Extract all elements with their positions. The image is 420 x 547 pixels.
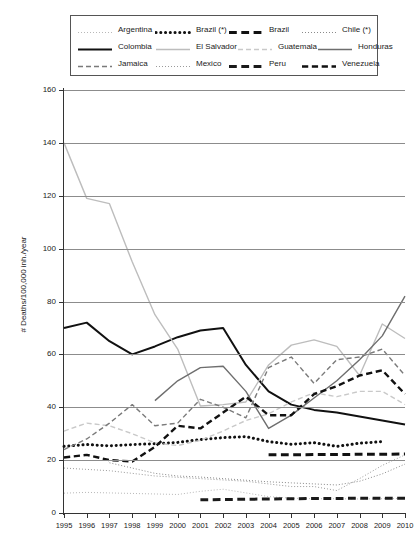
x-tick-label: 1995 xyxy=(56,522,73,530)
x-tick-label: 2005 xyxy=(283,522,300,530)
gridline xyxy=(64,460,405,461)
y-tick-label: 140 xyxy=(43,139,56,147)
x-tick-label: 1997 xyxy=(101,522,118,530)
legend-item-colombia[interactable]: Colombia xyxy=(77,38,155,55)
y-tick xyxy=(59,90,64,91)
series-line-chile xyxy=(109,463,405,485)
legend-swatch-icon xyxy=(228,58,264,69)
x-tick-label: 2006 xyxy=(306,522,323,530)
legend-swatch-icon xyxy=(301,58,337,69)
legend-label: El Salvador xyxy=(191,42,237,52)
x-tick-label: 2010 xyxy=(397,522,414,530)
y-tick xyxy=(59,460,64,461)
legend-swatch-icon xyxy=(301,24,337,35)
y-tick xyxy=(59,143,64,144)
gridline xyxy=(64,249,405,250)
y-tick xyxy=(59,407,64,408)
x-tick xyxy=(246,513,247,518)
x-tick xyxy=(87,513,88,518)
legend-swatch-icon xyxy=(77,58,113,69)
gridline xyxy=(64,196,405,197)
x-tick-label: 2009 xyxy=(374,522,391,530)
y-tick-label: 0 xyxy=(52,509,56,517)
x-tick xyxy=(155,513,156,518)
legend-swatch-icon xyxy=(155,24,191,35)
y-tick-label: 160 xyxy=(43,86,56,94)
series-line-brazil xyxy=(269,454,405,455)
legend-item-mexico[interactable]: Mexico xyxy=(155,55,228,72)
legend-label: Venezuela xyxy=(337,59,379,69)
legend-swatch-icon xyxy=(77,41,113,52)
legend-label: Colombia xyxy=(113,42,152,52)
x-tick-label: 2003 xyxy=(238,522,255,530)
legend-item-guatemala[interactable]: Guatemala xyxy=(237,38,317,55)
gridline xyxy=(64,302,405,303)
series-line-colombia xyxy=(64,323,405,425)
chart-legend: ArgentinaBrazil (*)BrazilChile (*) Colom… xyxy=(70,15,378,76)
y-tick-label: 120 xyxy=(43,192,56,200)
y-tick xyxy=(59,196,64,197)
y-tick-label: 80 xyxy=(47,298,56,306)
x-tick-label: 2007 xyxy=(328,522,345,530)
legend-item-jamaica[interactable]: Jamaica xyxy=(77,55,155,72)
legend-swatch-icon xyxy=(77,24,113,35)
legend-label: Chile (*) xyxy=(337,25,371,35)
legend-item-peru[interactable]: Peru xyxy=(228,55,301,72)
legend-label: Guatemala xyxy=(273,42,317,52)
legend-item-el-salvador[interactable]: El Salvador xyxy=(155,38,237,55)
x-tick-label: 2002 xyxy=(215,522,232,530)
legend-label: Brazil xyxy=(264,25,289,35)
series-line-brazil xyxy=(64,437,382,447)
x-tick-label: 1999 xyxy=(147,522,164,530)
legend-row-2: ColombiaEl SalvadorGuatemalaHonduras xyxy=(77,38,371,55)
legend-label: Brazil (*) xyxy=(191,25,227,35)
legend-item-argentina[interactable]: Argentina xyxy=(77,21,155,38)
x-tick xyxy=(360,513,361,518)
legend-label: Jamaica xyxy=(113,59,148,69)
legend-row-1: ArgentinaBrazil (*)BrazilChile (*) xyxy=(77,21,371,38)
x-tick xyxy=(223,513,224,518)
x-tick xyxy=(178,513,179,518)
series-line-el-salvador xyxy=(64,143,405,406)
y-tick-label: 40 xyxy=(47,403,56,411)
legend-row-3: JamaicaMexicoPeruVenezuela xyxy=(77,55,371,72)
legend-swatch-icon xyxy=(155,58,191,69)
x-tick xyxy=(405,513,406,518)
legend-item-honduras[interactable]: Honduras xyxy=(317,38,395,55)
x-tick xyxy=(337,513,338,518)
x-tick-label: 2000 xyxy=(169,522,186,530)
legend-swatch-icon xyxy=(317,41,353,52)
x-tick-label: 1996 xyxy=(78,522,95,530)
legend-label: Peru xyxy=(264,59,286,69)
gridline xyxy=(64,143,405,144)
legend-item-brazil[interactable]: Brazil (*) xyxy=(155,21,228,38)
x-tick xyxy=(132,513,133,518)
legend-item-chile[interactable]: Chile (*) xyxy=(301,21,379,38)
gridline xyxy=(64,354,405,355)
legend-item-venezuela[interactable]: Venezuela xyxy=(301,55,379,72)
y-tick-label: 20 xyxy=(47,456,56,464)
gridline xyxy=(64,407,405,408)
legend-swatch-icon xyxy=(228,24,264,35)
x-axis: 1995199619971998199920002001200220032004… xyxy=(64,513,406,543)
x-tick xyxy=(291,513,292,518)
legend-swatch-icon xyxy=(237,41,273,52)
y-tick-label: 100 xyxy=(43,245,56,253)
y-tick xyxy=(59,354,64,355)
x-tick-label: 2004 xyxy=(260,522,277,530)
x-tick xyxy=(269,513,270,518)
x-tick xyxy=(109,513,110,518)
y-tick xyxy=(59,302,64,303)
y-tick-label: 60 xyxy=(47,350,56,358)
x-tick xyxy=(382,513,383,518)
x-tick xyxy=(314,513,315,518)
legend-label: Honduras xyxy=(353,42,393,52)
x-tick-label: 2001 xyxy=(192,522,209,530)
plot-area: 020406080100120140160 xyxy=(64,90,405,513)
legend-label: Argentina xyxy=(113,25,152,35)
gridline xyxy=(64,90,405,91)
chart-page: ArgentinaBrazil (*)BrazilChile (*) Colom… xyxy=(0,0,420,547)
legend-item-brazil[interactable]: Brazil xyxy=(228,21,301,38)
y-axis-title: # Deaths/100,000 inh./year xyxy=(19,215,28,355)
legend-swatch-icon xyxy=(155,41,191,52)
